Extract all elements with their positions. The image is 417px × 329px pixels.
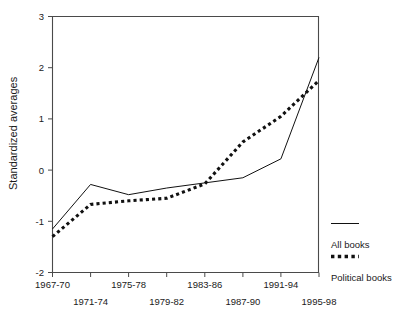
x-tick-marks xyxy=(53,273,320,278)
y-tick-label-neg1: -1 xyxy=(36,216,44,227)
x-tick-label-1967-70: 1967-70 xyxy=(35,279,70,290)
line-chart: 3 2 1 0 -1 -2 Standardized averages 1967… xyxy=(0,0,417,329)
y-tick-label-0: 0 xyxy=(39,165,44,176)
series-line-political-books xyxy=(53,81,320,237)
y-tick-label-neg2: -2 xyxy=(36,267,44,278)
axis-lines xyxy=(53,16,320,273)
x-tick-label-1995-98: 1995-98 xyxy=(302,296,337,307)
x-tick-label-1979-82: 1979-82 xyxy=(149,296,184,307)
y-tick-label-3: 3 xyxy=(39,11,44,22)
legend-label-all-books: All books xyxy=(331,239,370,250)
chart-figure: 3 2 1 0 -1 -2 Standardized averages 1967… xyxy=(0,0,417,329)
x-tick-label-1991-94: 1991-94 xyxy=(263,279,298,290)
legend: All books Political books xyxy=(331,224,392,284)
y-tick-label-1: 1 xyxy=(39,113,44,124)
legend-label-political-books: Political books xyxy=(331,272,392,283)
y-tick-label-2: 2 xyxy=(39,62,44,73)
x-tick-label-1971-74: 1971-74 xyxy=(73,296,108,307)
y-tick-marks xyxy=(48,17,53,273)
y-axis-title: Standardized averages xyxy=(7,76,19,190)
x-tick-label-1975-78: 1975-78 xyxy=(111,279,146,290)
x-tick-label-1983-86: 1983-86 xyxy=(187,279,222,290)
x-tick-label-1987-90: 1987-90 xyxy=(225,296,260,307)
